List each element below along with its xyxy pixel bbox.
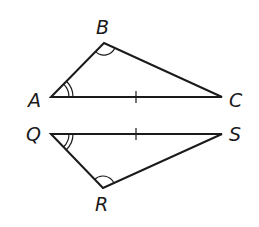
vertex-label-b: B bbox=[96, 16, 109, 38]
vertex-label-r: R bbox=[95, 193, 108, 215]
vertex-label-a: A bbox=[26, 89, 41, 111]
vertex-label-s: S bbox=[229, 123, 241, 145]
vertex-label-c: C bbox=[229, 89, 243, 111]
triangle-qrs-outline bbox=[51, 134, 222, 188]
triangle-abc bbox=[51, 43, 222, 103]
angle-arc-a-inner bbox=[64, 84, 69, 97]
triangle-qrs bbox=[51, 128, 222, 188]
angle-arc-q-inner bbox=[64, 134, 70, 147]
vertex-label-q: Q bbox=[26, 123, 41, 145]
congruent-triangles-diagram: A B C Q R S bbox=[0, 0, 259, 227]
triangle-abc-outline bbox=[51, 43, 222, 97]
